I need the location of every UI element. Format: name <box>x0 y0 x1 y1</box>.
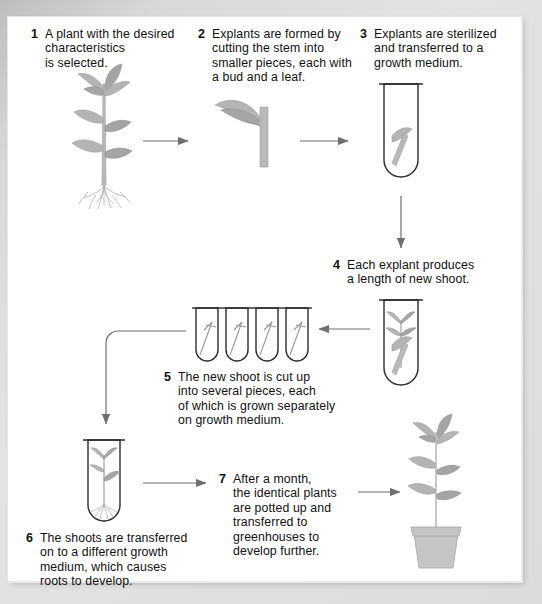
step-1-number: 1 <box>31 27 38 41</box>
figure-explant <box>215 100 268 167</box>
figure-test-tube-step6 <box>83 440 125 521</box>
figure-test-tube-step3 <box>379 84 423 177</box>
figure-whole-plant-with-roots <box>72 64 132 209</box>
step-4: 4 Each explant produces a length of new … <box>333 258 518 287</box>
step-3: 3 Explants are sterilized and transferre… <box>360 27 525 70</box>
figure-four-test-tubes <box>192 308 312 361</box>
step-6: 6 The shoots are transferred on to a dif… <box>26 531 216 589</box>
step-7-text: After a month, the identical plants are … <box>233 472 354 558</box>
figure-potted-plant <box>408 414 461 568</box>
step-4-text: Each explant produces a length of new sh… <box>347 258 518 287</box>
step-2-number: 2 <box>198 27 205 41</box>
step-7-number: 7 <box>219 472 226 486</box>
step-5-text: The new shoot is cut up into several pie… <box>178 370 374 428</box>
step-3-number: 3 <box>360 27 367 41</box>
step-5-number: 5 <box>164 370 171 384</box>
step-6-number: 6 <box>26 531 33 545</box>
figure-test-tube-step4 <box>379 300 423 385</box>
test-tube-1 <box>192 308 222 361</box>
step-1-text: A plant with the desired characteristics… <box>45 27 201 70</box>
step-2: 2 Explants are formed by cutting the ste… <box>198 27 358 85</box>
step-3-text: Explants are sterilized and transferred … <box>374 27 525 70</box>
step-4-number: 4 <box>333 258 340 272</box>
step-5: 5 The new shoot is cut up into several p… <box>164 370 374 428</box>
step-1: 1 A plant with the desired characteristi… <box>31 27 201 70</box>
step-7: 7 After a month, the identical plants ar… <box>219 472 354 558</box>
diagram-root: 1 A plant with the desired characteristi… <box>0 0 542 604</box>
test-tube-4 <box>282 308 312 361</box>
step-2-text: Explants are formed by cutting the stem … <box>212 27 358 85</box>
step-6-text: The shoots are transferred on to a diffe… <box>40 531 216 589</box>
test-tube-2 <box>222 308 252 361</box>
test-tube-3 <box>252 308 282 361</box>
